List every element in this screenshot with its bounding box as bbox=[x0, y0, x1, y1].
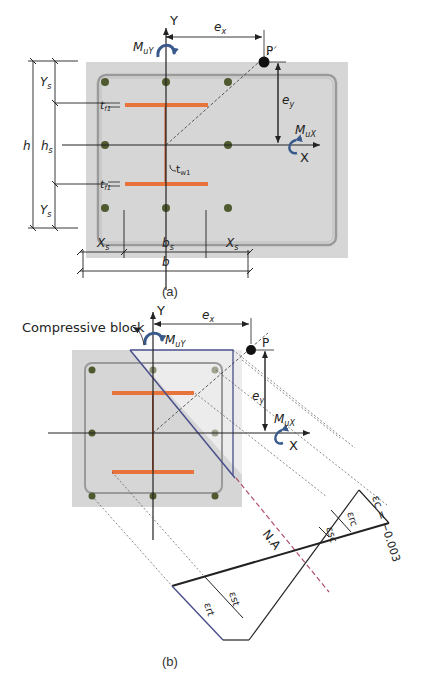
ex-label: ex bbox=[214, 20, 226, 36]
moment-y-label: MuY bbox=[133, 40, 154, 56]
ys-top-label: Ys bbox=[40, 75, 52, 91]
hs-label: hs bbox=[41, 139, 53, 155]
strain-baseline bbox=[172, 523, 389, 586]
diagram-canvas: Y X P ex ey MuY MuX tf1 tf1 tw1 bbox=[0, 0, 430, 682]
load-point-p bbox=[259, 57, 270, 68]
figure-b: N.A Y X P ex ey MuY MuX Compressive bloc… bbox=[22, 303, 403, 669]
b-label: b bbox=[162, 255, 170, 269]
strain-profile bbox=[249, 490, 359, 640]
ys-bottom-label: Ys bbox=[40, 203, 52, 219]
y-axis-label: Y bbox=[169, 13, 178, 28]
x-axis-label: X bbox=[300, 150, 309, 165]
x-axis-label: X bbox=[289, 438, 298, 453]
moment-y-label: MuY bbox=[165, 333, 186, 349]
moment-x-arrow-icon bbox=[275, 430, 283, 443]
ey-label: ey bbox=[252, 389, 264, 405]
rebar bbox=[224, 78, 232, 86]
h-label: h bbox=[23, 139, 31, 153]
neutral-axis bbox=[236, 478, 329, 592]
load-point-label: P bbox=[262, 336, 269, 350]
y-axis-label: Y bbox=[156, 303, 165, 318]
load-point-p bbox=[246, 345, 256, 355]
rebar bbox=[101, 78, 109, 86]
caption-b: (b) bbox=[162, 654, 178, 669]
ex-label: ex bbox=[202, 308, 214, 324]
rebar bbox=[224, 204, 232, 212]
strain-rt-label: εrt bbox=[202, 601, 217, 617]
caption-a: (a) bbox=[162, 284, 178, 299]
moment-x-label: MuX bbox=[274, 412, 295, 428]
strain-st-label: εst bbox=[227, 590, 242, 607]
load-point-label: P bbox=[266, 44, 273, 58]
rebar bbox=[101, 204, 109, 212]
strain-rc-label: εrc bbox=[345, 510, 360, 527]
figure-a: Y X P ex ey MuY MuX tf1 tf1 tw1 bbox=[23, 13, 348, 299]
compressive-block-label: Compressive block bbox=[22, 320, 145, 335]
neutral-axis-label: N.A bbox=[260, 527, 284, 553]
